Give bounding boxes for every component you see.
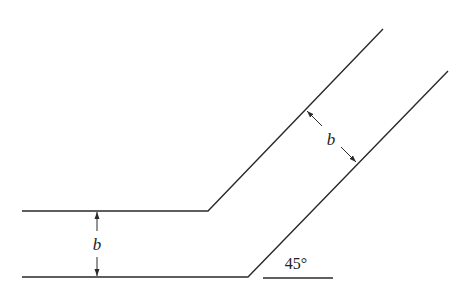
dimension-arrow-lower-right-icon	[341, 147, 356, 162]
angle-label: 45°	[285, 255, 307, 272]
inclined-width-dimension: b	[307, 111, 356, 162]
inclined-width-label: b	[327, 130, 336, 149]
diagram-svg: b b 45°	[0, 0, 474, 302]
upper-wall-line	[22, 29, 383, 211]
channel-bend-diagram: b b 45°	[0, 0, 474, 302]
dimension-arrow-upper-left-icon	[307, 111, 322, 126]
horizontal-width-dimension: b	[93, 212, 102, 276]
lower-wall-line	[22, 71, 448, 277]
horizontal-width-label: b	[93, 235, 102, 254]
